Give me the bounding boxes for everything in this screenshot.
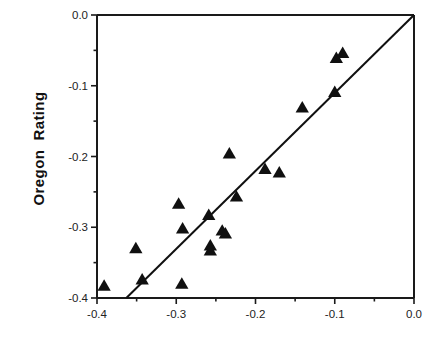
- data-point-marker: [129, 242, 142, 253]
- data-point-marker: [175, 277, 188, 288]
- regression-line: [126, 15, 414, 298]
- data-point-marker: [296, 101, 309, 112]
- y-tick-label: -0.1: [68, 80, 88, 92]
- data-point-marker: [336, 47, 349, 58]
- y-tick-label: -0.4: [68, 292, 88, 304]
- data-point-marker: [273, 166, 286, 177]
- x-tick-label: -0.4: [87, 308, 107, 320]
- y-tick-label: 0.0: [72, 9, 88, 21]
- scatter-plot-figure: Oregon Rating -0.4-0.3-0.2-0.10.0-0.4-0.…: [0, 0, 437, 345]
- data-point-marker: [230, 190, 243, 201]
- data-point-marker: [202, 209, 215, 220]
- data-point-marker: [97, 279, 110, 290]
- x-tick-label: -0.3: [166, 308, 186, 320]
- data-point-marker: [176, 222, 189, 233]
- y-tick-label: -0.2: [68, 151, 88, 163]
- plot-canvas: [0, 0, 437, 345]
- y-axis-label: Oregon Rating: [30, 49, 47, 249]
- data-point-marker: [223, 147, 236, 158]
- x-tick-label: -0.1: [325, 308, 345, 320]
- x-tick-label: -0.2: [246, 308, 266, 320]
- data-point-marker: [258, 163, 271, 174]
- x-tick-label: 0.0: [406, 308, 422, 320]
- y-tick-label: -0.3: [68, 221, 88, 233]
- data-point-marker: [172, 197, 185, 208]
